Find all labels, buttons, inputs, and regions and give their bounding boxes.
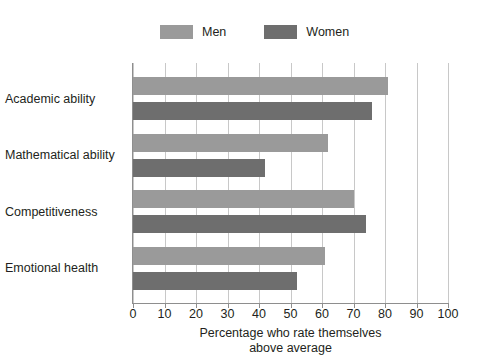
gridline-80 xyxy=(385,63,386,303)
x-axis-title: Percentage who rate themselves above ave… xyxy=(133,326,448,355)
x-tick-label-60: 60 xyxy=(315,308,329,321)
category-label-0: Academic ability xyxy=(5,93,133,106)
bar-women-1 xyxy=(133,159,265,177)
gridline-10 xyxy=(165,63,166,303)
gridline-0 xyxy=(133,63,134,303)
x-tick-label-100: 100 xyxy=(438,308,459,321)
legend-item-men: Men xyxy=(160,25,226,39)
bar-men-0 xyxy=(133,77,388,95)
bar-chart: Men Women Academic abilityMathematical a… xyxy=(0,0,494,355)
chart-legend: Men Women xyxy=(160,20,360,44)
x-tick-label-90: 90 xyxy=(410,308,424,321)
x-tick-label-50: 50 xyxy=(284,308,298,321)
legend-swatch-women xyxy=(264,25,297,39)
x-tick-label-80: 80 xyxy=(378,308,392,321)
legend-label-men: Men xyxy=(202,26,226,39)
gridline-20 xyxy=(196,63,197,303)
x-axis-title-line-2: above average xyxy=(133,341,448,355)
plot-area xyxy=(133,63,448,303)
gridline-70 xyxy=(354,63,355,303)
bar-men-3 xyxy=(133,247,325,265)
legend-item-women: Women xyxy=(264,25,349,39)
bar-men-2 xyxy=(133,190,354,208)
x-tick-label-20: 20 xyxy=(189,308,203,321)
x-tick-label-30: 30 xyxy=(221,308,235,321)
category-label-1: Mathematical ability xyxy=(5,149,133,162)
gridline-90 xyxy=(417,63,418,303)
x-tick-label-10: 10 xyxy=(158,308,172,321)
legend-label-women: Women xyxy=(306,26,349,39)
gridline-60 xyxy=(322,63,323,303)
x-axis-tick-labels: 0102030405060708090100 xyxy=(133,308,448,324)
bar-women-0 xyxy=(133,102,372,120)
y-axis-line xyxy=(132,63,133,303)
gridline-30 xyxy=(228,63,229,303)
category-label-2: Competitiveness xyxy=(5,206,133,219)
category-label-3: Emotional health xyxy=(5,262,133,275)
bar-women-2 xyxy=(133,215,366,233)
legend-swatch-men xyxy=(160,25,193,39)
category-axis-labels: Academic abilityMathematical abilityComp… xyxy=(5,63,133,303)
x-tick-label-70: 70 xyxy=(347,308,361,321)
bar-men-1 xyxy=(133,134,328,152)
bar-women-3 xyxy=(133,272,297,290)
x-tick-label-0: 0 xyxy=(130,308,137,321)
gridline-40 xyxy=(259,63,260,303)
gridline-100 xyxy=(448,63,449,303)
gridline-50 xyxy=(291,63,292,303)
x-tick-label-40: 40 xyxy=(252,308,266,321)
x-axis-title-line-1: Percentage who rate themselves xyxy=(199,326,381,340)
